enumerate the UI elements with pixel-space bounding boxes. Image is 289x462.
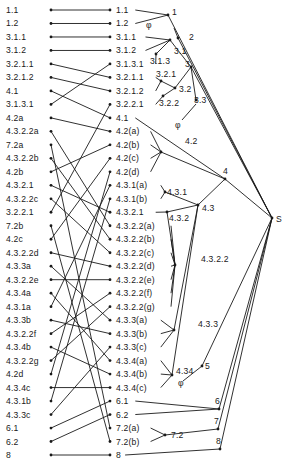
right-item-dot: [109, 440, 112, 443]
right-item-dot: [109, 170, 112, 173]
tree-node-label-4-3-2: 4.3.2: [169, 213, 189, 223]
tree-edge: [156, 81, 161, 91]
tree-edge: [198, 179, 225, 205]
right-item-dot: [109, 22, 112, 25]
right-item-label: 4.3.4(b): [116, 369, 147, 379]
right-item-dot: [109, 251, 112, 254]
right-item-dot: [109, 400, 112, 403]
right-item-label: 1.1: [116, 5, 129, 15]
tree-node-label-3-2: 3.2: [179, 84, 192, 94]
tree-node-label-7-2: 7.2: [171, 430, 184, 440]
tree-node-dot: [167, 14, 170, 17]
right-item-label: 4.3.3(b): [116, 329, 147, 339]
left-item-label: 4.3.1a: [6, 302, 31, 312]
tree-node-dot: [219, 448, 222, 451]
right-item-dot: [109, 36, 112, 39]
left-item-label: 6.1: [6, 423, 19, 433]
hierarchy-tree: 123.1.33.13.2.13.2.23.23.334.24.3.14.3.2…: [125, 7, 282, 455]
tree-node-label-4-3-4: 4.34: [176, 366, 194, 376]
root-edge: [191, 67, 272, 218]
tree-node-dot: [160, 80, 163, 83]
left-item-label: 1.1: [6, 5, 19, 15]
match-line: [51, 320, 110, 333]
right-item-dot: [109, 278, 112, 281]
left-item-label: 4.3.3b: [6, 315, 31, 325]
right-item-label: 4.3.2.2(c): [116, 248, 154, 258]
tree-edge: [172, 205, 198, 375]
left-item-label: 3.1.3.1: [6, 99, 34, 109]
right-item-label: 3.2.2.1: [116, 99, 144, 109]
tree-node-dot: [173, 329, 176, 332]
tree-edge: [151, 428, 165, 435]
right-item-dot: [109, 346, 112, 349]
left-item-label: 6.2: [6, 437, 19, 447]
tree-edge: [163, 88, 175, 96]
tree-node-dot: [160, 151, 163, 154]
tree-node-label-3-3: 3.3: [194, 95, 207, 105]
match-line: [51, 199, 110, 253]
right-item-dot: [109, 319, 112, 322]
right-item-dot: [109, 184, 112, 187]
match-line: [51, 145, 110, 428]
tree-edge: [161, 374, 172, 375]
right-item-dot: [109, 305, 112, 308]
right-item-dot: [109, 76, 112, 79]
tree-node-label-7: 7: [214, 416, 219, 426]
right-item-dot: [109, 130, 112, 133]
right-item-dot: [109, 211, 112, 214]
right-item-dot: [109, 265, 112, 268]
left-item-label: 4.3.4c: [6, 383, 31, 393]
right-item-label: 4.3.2.2(e): [116, 275, 155, 285]
tree-node-dot: [162, 95, 165, 98]
tree-node-dot: [174, 87, 177, 90]
right-item-dot: [109, 292, 112, 295]
empty-set-symbol: φ: [178, 378, 184, 388]
tree-node-dot: [171, 374, 174, 377]
tree-node-dot: [164, 434, 167, 437]
right-item-dot: [109, 157, 112, 160]
right-item-label: 7.2(b): [116, 437, 140, 447]
tree-edge: [135, 409, 219, 415]
right-item-label: 6.1: [116, 396, 129, 406]
left-item-label: 4.2b: [6, 167, 24, 177]
right-item-label: 3.1.1: [116, 32, 136, 42]
right-item-label: 4.3.1(b): [116, 194, 147, 204]
tree-node-label-3-1-3: 3.1.3: [150, 56, 170, 66]
left-item-label: 4.3.3c: [6, 410, 31, 420]
left-item-label: 4.2d: [6, 369, 24, 379]
tree-node-dot: [218, 408, 221, 411]
right-item-label: 4.2(a): [116, 126, 140, 136]
tree-edge: [182, 104, 196, 120]
right-item-label: 4.3.1(a): [116, 180, 147, 190]
right-item-dot: [109, 9, 112, 12]
right-item-label: 3.1.2: [116, 45, 136, 55]
tree-edge: [151, 435, 165, 442]
left-item-label: 7.2a: [6, 140, 24, 150]
tree-node-label-3-2-1: 3.2.1: [156, 69, 176, 79]
root-node-dot: [271, 217, 274, 220]
right-item-dot: [109, 238, 112, 241]
right-item-label: 8: [116, 450, 121, 460]
left-item-label: 4.3.2.2e: [6, 275, 39, 285]
right-item-dot: [109, 386, 112, 389]
root-edge: [220, 218, 272, 449]
right-item-label: 4.3.2.2(g): [116, 302, 155, 312]
right-item-dot: [109, 197, 112, 200]
match-line: [51, 415, 110, 442]
left-item-label: 8: [6, 450, 11, 460]
right-item-dot: [109, 143, 112, 146]
tree-node-label-8n: 8: [216, 436, 221, 446]
tree-edge: [156, 40, 170, 54]
left-item-label: 3.2.2.1: [6, 207, 34, 217]
tree-edge: [174, 205, 198, 330]
left-item-label: 4.3.4b: [6, 342, 31, 352]
tree-node-dot: [197, 204, 200, 207]
right-item-label: 3.1.3.1: [116, 59, 144, 69]
right-item-label: 4.1: [116, 113, 129, 123]
empty-set-symbol: φ: [146, 20, 152, 30]
tree-node-label-4-3: 4.3: [202, 203, 215, 213]
right-item-label: 4.3.2.2(a): [116, 221, 155, 231]
right-item-label: 3.2.1.2: [116, 86, 144, 96]
tree-edge: [161, 361, 172, 375]
right-item-label: 6.2: [116, 410, 129, 420]
